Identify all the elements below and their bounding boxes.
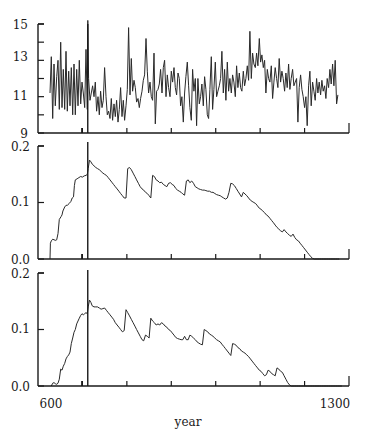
mid-ytick-0.0: 0.0 [11, 253, 30, 267]
mid-ytick-0.2: 0.2 [11, 140, 30, 154]
top-ytick-9: 9 [20, 127, 28, 141]
series-polyline [50, 20, 338, 125]
top-series-line [50, 20, 338, 125]
bottom-series-line [51, 300, 342, 386]
panel-bottom: 0.2 0.1 0.0 600 1300 year [11, 267, 350, 429]
top-ytick-13: 13 [13, 50, 28, 64]
top-ytick-11: 11 [13, 89, 28, 103]
x-axis-title: year [174, 415, 202, 429]
top-ytick-15: 15 [13, 18, 28, 32]
bot-ytick-0.2: 0.2 [11, 267, 30, 281]
xtick-label-1300: 1300 [320, 397, 351, 411]
chart-figure: 15 13 11 9 0.2 0.1 0.0 0.2 0.1 0.0 600 1… [0, 0, 367, 439]
middle-axes [38, 142, 349, 259]
series-polyline [50, 160, 339, 259]
bottom-axes [38, 270, 349, 386]
middle-series-line [50, 160, 339, 259]
panel-middle: 0.2 0.1 0.0 [11, 140, 349, 267]
bot-ytick-0.0: 0.0 [11, 380, 30, 394]
panel-top: 15 13 11 9 [13, 18, 349, 141]
series-polyline [51, 300, 342, 386]
xtick-label-600: 600 [40, 397, 63, 411]
mid-ytick-0.1: 0.1 [11, 195, 30, 209]
bot-ytick-0.1: 0.1 [11, 322, 30, 336]
